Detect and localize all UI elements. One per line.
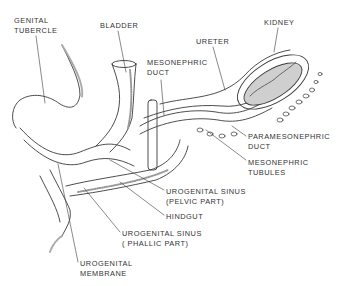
diagram-canvas: GENITALTUBERCLE BLADDER MESONEPHRICDUCT … xyxy=(0,0,342,286)
label-line: TUBULES xyxy=(248,168,286,177)
label-line: DUCT xyxy=(248,142,271,151)
label-genital-tubercle: GENITALTUBERCLE xyxy=(14,16,57,35)
label-line: TUBERCLE xyxy=(14,26,57,35)
label-line: MESONEPHRIC xyxy=(147,58,208,67)
label-line: UROGENITAL xyxy=(80,259,133,268)
label-line: MESONEPHRIC xyxy=(248,158,309,167)
label-line: UROGENITAL SINUS xyxy=(122,229,202,238)
label-ureter: URETER xyxy=(196,37,229,47)
mesonephric-duct-segment xyxy=(148,100,157,170)
label-line: GENITAL xyxy=(14,16,49,25)
label-mesonephric-tubules: MESONEPHRICTUBULES xyxy=(248,158,309,177)
label-hindgut: HINDGUT xyxy=(166,212,203,222)
label-line: ( PHALLIC PART) xyxy=(122,239,188,248)
label-bladder: BLADDER xyxy=(100,21,138,31)
label-urogenital-sinus-pelvic: UROGENITAL SINUS(PELVIC PART) xyxy=(166,187,246,206)
label-line: HINDGUT xyxy=(166,212,203,221)
label-line: BLADDER xyxy=(100,21,138,30)
label-line: UROGENITAL SINUS xyxy=(166,187,246,196)
label-kidney: KIDNEY xyxy=(264,18,295,28)
label-line: MEMBRANE xyxy=(80,269,127,278)
label-line: KIDNEY xyxy=(264,18,295,27)
label-urogenital-sinus-phallic: UROGENITAL SINUS( PHALLIC PART) xyxy=(122,229,202,248)
label-urogenital-membrane: UROGENITALMEMBRANE xyxy=(80,259,133,278)
label-line: PARAMESONEPHRIC xyxy=(248,132,330,141)
label-line: URETER xyxy=(196,37,229,46)
label-paramesonephric-duct: PARAMESONEPHRICDUCT xyxy=(248,132,330,151)
label-line: DUCT xyxy=(147,68,170,77)
label-line: (PELVIC PART) xyxy=(166,197,224,206)
label-mesonephric-duct: MESONEPHRICDUCT xyxy=(147,58,208,77)
